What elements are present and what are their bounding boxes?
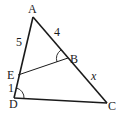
triangle-diagram: A B C D E 5 4 x 1 bbox=[0, 0, 122, 115]
length-label-AB: 4 bbox=[54, 25, 60, 39]
point-label-A: A bbox=[28, 2, 37, 16]
length-label-AE: 5 bbox=[16, 35, 22, 49]
length-label-ED: 1 bbox=[8, 81, 14, 95]
segment-AD bbox=[14, 17, 33, 98]
length-label-BC: x bbox=[90, 69, 97, 83]
point-label-E: E bbox=[7, 68, 14, 82]
point-label-C: C bbox=[108, 99, 116, 113]
point-label-B: B bbox=[70, 52, 78, 66]
segment-EB bbox=[18, 58, 68, 75]
point-label-D: D bbox=[9, 97, 18, 111]
segment-DC bbox=[14, 98, 107, 103]
